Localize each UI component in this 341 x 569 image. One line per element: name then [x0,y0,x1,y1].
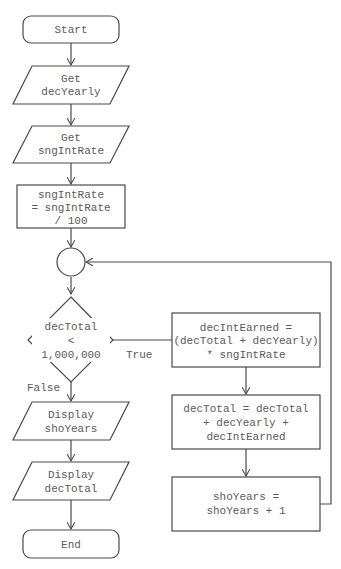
process-label-line3: decIntEarned [206,431,285,443]
process-label-line1: shoYears = [213,491,279,503]
process-label-line2: + decYearly + [203,417,289,429]
true-label: True [126,349,152,361]
process-label-line1: sngIntRate [38,189,104,201]
decision-label-line3: 1,000,000 [41,349,100,361]
input-label-line2: sngIntRate [38,145,104,157]
output-label-line1: Display [48,409,95,421]
output-display-shoyears: Display shoYears [13,402,129,440]
process-label-line1: decTotal = decTotal [183,403,308,415]
edges [71,43,331,529]
end-terminator: End [23,530,119,558]
decision-total-check: decTotal < 1,000,000 [28,297,113,382]
start-terminator: Start [23,16,119,43]
process-update-total: decTotal = decTotal + decYearly + decInt… [172,395,320,449]
decision-label-line1: decTotal [45,321,98,333]
loop-connector [57,248,85,276]
process-label-line1: decIntEarned = [200,322,292,334]
process-label-line2: = sngIntRate [31,202,110,214]
false-label: False [27,382,60,394]
process-label-line3: / 100 [54,215,87,227]
output-label-line2: shoYears [45,423,98,435]
input-label-line1: Get [61,132,81,144]
input-label-line1: Get [61,73,81,85]
process-label-line3: * sngIntRate [206,349,285,361]
process-label-line2: (decTotal + decYearly) [173,335,318,347]
end-label: End [61,539,81,551]
output-display-dectotal: Display decTotal [13,462,129,500]
flowchart-canvas: Start Get decYearly Get sngIntRate sngIn… [0,0,341,569]
output-label-line1: Display [48,469,95,481]
process-label-line2: shoYears + 1 [206,505,286,517]
process-calc-rate: sngIntRate = sngIntRate / 100 [17,185,125,228]
decision-label-line2: < [68,335,75,347]
input-get-sngintrate: Get sngIntRate [13,126,129,163]
output-label-line2: decTotal [45,483,98,495]
process-inc-years: shoYears = shoYears + 1 [172,477,320,531]
start-label: Start [54,24,87,36]
process-calc-interest: decIntEarned = (decTotal + decYearly) * … [172,313,320,367]
input-label-line2: decYearly [41,86,101,98]
input-get-decyearly: Get decYearly [13,66,129,104]
